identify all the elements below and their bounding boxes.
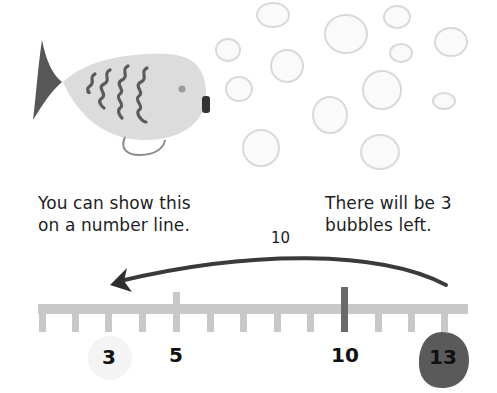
bubble-icon: [216, 39, 240, 61]
bubble-icon: [390, 44, 412, 62]
bubble-icon: [226, 77, 252, 101]
caption-left-line-2: on a number line.: [38, 214, 191, 236]
number-line: [38, 287, 469, 388]
caption-left-line-1: You can show this: [38, 192, 191, 214]
label-3: 3: [89, 345, 129, 369]
bubble-icon: [243, 130, 279, 166]
label-5: 5: [156, 343, 196, 367]
bubble-icon: [361, 135, 399, 169]
bubble-icon: [325, 15, 367, 53]
jump-label: 10: [271, 229, 290, 247]
tick-10: [341, 287, 348, 332]
bubble-icon: [257, 3, 289, 27]
bubble-icon: [435, 28, 467, 56]
caption-right-line-1: There will be 3: [325, 192, 452, 214]
bubble-icon: [384, 6, 410, 28]
fish-icon: [33, 40, 210, 155]
label-10: 10: [325, 343, 365, 367]
caption-right: There will be 3 bubbles left.: [325, 192, 452, 236]
bubble-icon: [271, 50, 303, 82]
caption-left: You can show this on a number line.: [38, 192, 191, 236]
bubble-icon: [433, 93, 455, 109]
bubbles: [216, 3, 467, 169]
label-13: 13: [423, 345, 463, 369]
bubble-icon: [313, 97, 347, 133]
jump-arrow: [110, 258, 446, 292]
caption-right-line-2: bubbles left.: [325, 214, 452, 236]
bubble-icon: [363, 71, 401, 109]
